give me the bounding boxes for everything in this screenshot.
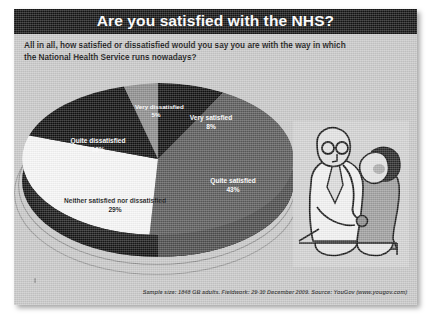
slice-label-very-satisfied: Very satisfied 8% (172, 113, 250, 131)
slice-value-very-dissatisfied: 5% (135, 111, 177, 119)
poll-result-poster: Are you satisfied with the NHS? All in a… (14, 9, 417, 305)
poll-question-line-1: All in all, how satisfied or dissatisfie… (24, 40, 354, 52)
scanned-page: Are you satisfied with the NHS? All in a… (0, 0, 433, 319)
slice-label-very-dissatisfied: Very dissatisfied 5% (135, 103, 177, 119)
slice-label-very-satisfied-text: Very satisfied (190, 114, 233, 121)
slice-label-quite-dissatisfied-text: Quite dissatisfied (71, 137, 126, 144)
pie-chart: Very satisfied 8% Quite satisfied 43% Ne… (14, 71, 417, 281)
slice-label-neither: Neither satisfied nor dissatisfied 29% (52, 196, 178, 214)
slice-label-neither-text: Neither satisfied nor dissatisfied (64, 197, 166, 204)
poll-question: All in all, how satisfied or dissatisfie… (24, 40, 354, 63)
slice-value-very-satisfied: 8% (172, 122, 250, 131)
slice-value-quite-satisfied: 43% (194, 185, 272, 194)
poll-question-line-2: the National Health Service runs nowaday… (24, 52, 354, 64)
slice-label-quite-dissatisfied: Quite dissatisfied 16% (52, 136, 144, 154)
slice-label-quite-satisfied-text: Quite satisfied (210, 177, 255, 184)
slice-label-quite-satisfied: Quite satisfied 43% (194, 176, 272, 194)
slice-value-quite-dissatisfied: 16% (52, 145, 144, 154)
slice-label-very-dissatisfied-text: Very dissatisfied (135, 103, 184, 110)
doctor-examining-patient-icon (293, 121, 409, 267)
slice-value-neither: 29% (52, 205, 178, 214)
pie-3d: Very satisfied 8% Quite satisfied 43% Ne… (22, 83, 294, 259)
chart-source-footnote: Sample size: 1848 GB adults. Fieldwork: … (14, 289, 407, 295)
scan-artifact (34, 278, 36, 283)
page-title: Are you satisfied with the NHS? (14, 12, 417, 30)
poster-title-bar: Are you satisfied with the NHS? (14, 9, 417, 34)
